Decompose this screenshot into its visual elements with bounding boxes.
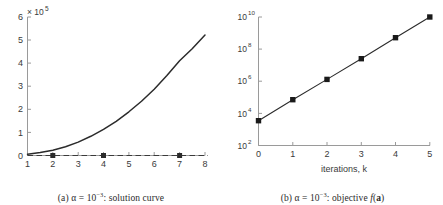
panel-b-y-tick-labels: 10 2 10 4 10 6 10 8 10 10 bbox=[238, 9, 256, 151]
panel-b-ytick-base-1: 10 bbox=[238, 109, 248, 119]
panel-a-solution-curve: 0 1 2 3 4 5 6 × 10 5 bbox=[0, 0, 222, 205]
panel-a-xtick-7: 7 bbox=[177, 159, 182, 169]
panel-b-xtick-5: 5 bbox=[427, 149, 432, 159]
panel-a-plot-area: 0 1 2 3 4 5 6 × 10 5 bbox=[0, 0, 222, 178]
panel-a-xtick-2: 2 bbox=[50, 159, 55, 169]
panel-a-svg: 0 1 2 3 4 5 6 × 10 5 bbox=[0, 0, 222, 178]
panel-a-caption-base: 10 bbox=[87, 193, 97, 203]
panel-b-xtick-1: 1 bbox=[290, 149, 295, 159]
panel-b-marker-k4 bbox=[393, 35, 398, 40]
panel-b-ytick-base-2: 10 bbox=[238, 76, 248, 86]
panel-b-objective-line bbox=[259, 17, 430, 121]
panel-b-caption-suffix: : objective bbox=[327, 193, 368, 203]
panel-b-caption-alpha: α bbox=[295, 193, 300, 203]
panel-b-ytick-exp-2: 6 bbox=[248, 73, 252, 80]
panel-a-ytick-0: 0 bbox=[18, 151, 23, 161]
panel-a-x-tick-labels: 1 2 3 4 5 6 7 8 bbox=[25, 159, 208, 169]
panel-a-marker-x7 bbox=[177, 153, 182, 158]
panel-a-xtick-3: 3 bbox=[76, 159, 81, 169]
panel-b-y-ticks bbox=[259, 17, 263, 146]
panel-b-x-tick-labels: 0 1 2 3 4 5 bbox=[256, 149, 432, 159]
panel-b-ytick-base-4: 10 bbox=[238, 12, 248, 22]
panel-a-ytick-5: 5 bbox=[18, 35, 23, 45]
panel-a-y-tick-labels: 0 1 2 3 4 5 6 bbox=[18, 12, 23, 161]
panel-a-marker-x2 bbox=[50, 153, 55, 158]
panel-b-caption-exponent: −3 bbox=[320, 191, 327, 198]
panel-a-y-ticks bbox=[28, 17, 32, 156]
panel-a-caption-equals: = bbox=[79, 193, 84, 203]
panel-a-y-multiplier-exponent: 5 bbox=[45, 5, 49, 12]
panel-a-caption-prefix: (a) bbox=[58, 193, 69, 203]
panel-b-plot-area: 10 2 10 4 10 6 10 8 10 10 bbox=[222, 0, 443, 178]
panel-b-xtick-4: 4 bbox=[393, 149, 398, 159]
panel-b-ytick-exp-0: 2 bbox=[248, 138, 252, 145]
panel-a-ytick-6: 6 bbox=[18, 12, 23, 22]
panel-b-marker-k2 bbox=[324, 77, 329, 82]
panel-b-objective: 10 2 10 4 10 6 10 8 10 10 bbox=[222, 0, 443, 205]
panel-a-ytick-4: 4 bbox=[18, 58, 23, 68]
panel-b-marker-k3 bbox=[359, 56, 364, 61]
panel-a-ytick-3: 3 bbox=[18, 81, 23, 91]
panel-b-caption-prefix: (b) bbox=[281, 193, 292, 203]
figure-container: 0 1 2 3 4 5 6 × 10 5 bbox=[0, 0, 443, 205]
panel-a-xtick-8: 8 bbox=[202, 159, 207, 169]
panel-b-xtick-0: 0 bbox=[256, 149, 261, 159]
panel-b-xtick-2: 2 bbox=[324, 149, 329, 159]
panel-b-svg: 10 2 10 4 10 6 10 8 10 10 bbox=[222, 0, 443, 178]
panel-a-ytick-1: 1 bbox=[18, 128, 23, 138]
panel-b-x-ticks bbox=[259, 142, 430, 146]
panel-a-caption-alpha: α bbox=[71, 193, 76, 203]
panel-b-marker-k5 bbox=[427, 14, 432, 19]
panel-b-ytick-exp-4: 10 bbox=[248, 9, 255, 16]
panel-b-ytick-base-3: 10 bbox=[238, 44, 248, 54]
panel-b-marker-k0 bbox=[256, 118, 261, 123]
panel-b-ytick-exp-1: 4 bbox=[248, 106, 252, 113]
panel-a-ytick-2: 2 bbox=[18, 104, 23, 114]
panel-a-xtick-5: 5 bbox=[126, 159, 131, 169]
panel-b-marker-k1 bbox=[290, 97, 295, 102]
panel-b-caption: (b) α = 10−3: objective f(a) bbox=[222, 193, 443, 203]
panel-a-solution-curve-line bbox=[28, 35, 206, 154]
panel-a-marker-x4 bbox=[101, 153, 106, 158]
panel-b-xtick-3: 3 bbox=[359, 149, 364, 159]
panel-b-x-axis-title: iterations, k bbox=[321, 164, 368, 174]
panel-a-y-multiplier-base: × 10 bbox=[27, 7, 44, 17]
panel-b-ytick-base-0: 10 bbox=[238, 141, 248, 151]
panel-a-xtick-6: 6 bbox=[152, 159, 157, 169]
panel-a-xtick-1: 1 bbox=[25, 159, 30, 169]
panel-a-caption: (a) α = 10−3: solution curve bbox=[0, 193, 222, 203]
panel-b-caption-equals: = bbox=[302, 193, 307, 203]
panel-b-ytick-exp-3: 8 bbox=[248, 41, 252, 48]
panel-b-caption-paren-close: ) bbox=[381, 193, 384, 203]
panel-a-caption-suffix: : solution curve bbox=[103, 193, 164, 203]
panel-a-y-multiplier: × 10 5 bbox=[27, 5, 49, 17]
panel-b-caption-base: 10 bbox=[310, 193, 320, 203]
panel-a-xtick-4: 4 bbox=[101, 159, 106, 169]
